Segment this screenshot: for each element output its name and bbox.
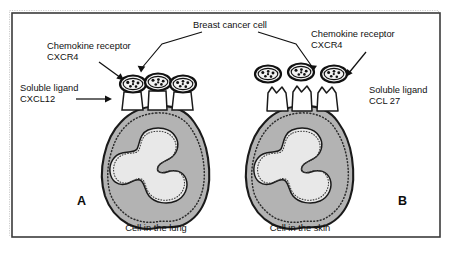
panel-letter-b: B	[398, 194, 407, 208]
chemokine-receptor-icon	[148, 91, 167, 110]
breast-cancer-cell-icon	[321, 66, 347, 83]
label-soluble-ligand-right-line2: CCL 27	[369, 96, 400, 106]
host-cell-lung	[102, 106, 209, 229]
panel-caption-a: Cell in the lung	[125, 223, 187, 233]
label-breast-cancer-cell: Breast cancer cell	[193, 20, 267, 30]
panel-letter-a: A	[77, 194, 86, 208]
label-chemokine-receptor-left-line2: CXCR4	[47, 52, 79, 62]
chemokine-receptor-icon	[122, 92, 143, 110]
breast-cancer-cell-icon	[288, 64, 314, 81]
label-chemokine-receptor-right-line1: Chemokine receptor	[311, 29, 395, 39]
panel-caption-b: Cell in the skin	[270, 223, 330, 233]
label-soluble-ligand-left-line2: CXCL12	[20, 94, 55, 104]
host-cell-skin	[246, 106, 353, 229]
cancer-cell-group-skin	[255, 64, 347, 83]
breast-cancer-cell-icon	[255, 66, 281, 83]
chemokine-receptor-icon	[172, 92, 193, 110]
figure-root: Breast cancer cell Chemokine receptor CX…	[0, 0, 459, 261]
diagram-canvas: Breast cancer cell Chemokine receptor CX…	[0, 0, 459, 261]
breast-cancer-cell-icon	[170, 76, 196, 93]
cancer-cell-group-lung	[120, 74, 196, 93]
receptor-group-lung	[122, 91, 193, 110]
breast-cancer-cell-icon	[145, 74, 171, 91]
breast-cancer-cell-icon	[120, 76, 146, 93]
label-chemokine-receptor-right-line2: CXCR4	[311, 40, 343, 50]
label-chemokine-receptor-left-line1: Chemokine receptor	[47, 41, 131, 51]
label-soluble-ligand-right-line1: Soluble ligand	[369, 85, 427, 95]
label-soluble-ligand-left-line1: Soluble ligand	[20, 83, 78, 93]
